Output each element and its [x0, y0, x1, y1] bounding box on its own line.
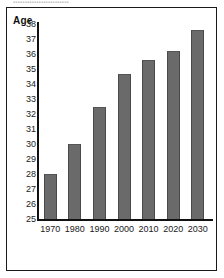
- bar[interactable]: [118, 74, 131, 220]
- bar[interactable]: [68, 144, 81, 219]
- y-tick-label: 28: [2, 169, 36, 179]
- bar[interactable]: [142, 60, 155, 219]
- y-tick-label: 33: [2, 94, 36, 104]
- bar[interactable]: [167, 51, 180, 219]
- bar-slot: [44, 24, 57, 219]
- y-tick-label: 31: [2, 124, 36, 134]
- y-tick-label: 36: [2, 49, 36, 59]
- bar-slot: [93, 24, 106, 219]
- bar-slot: [68, 24, 81, 219]
- y-tick-label: 37: [2, 34, 36, 44]
- y-tick-label: 38: [2, 19, 36, 29]
- bar-slot: [191, 24, 204, 219]
- bar-slot: [118, 24, 131, 219]
- bar-series: [38, 24, 210, 219]
- y-tick-label: 29: [2, 154, 36, 164]
- y-tick-label: 34: [2, 79, 36, 89]
- y-tick-label: 26: [2, 199, 36, 209]
- figure-container: ▪▪▪▪▪▪▪▪▪▪▪▪▪▪▪▪▪▪▪▪▪▪▪▪ Age 25262728293…: [0, 0, 224, 278]
- bar-slot: [142, 24, 155, 219]
- y-tick-label: 25: [2, 214, 36, 224]
- x-axis-line: [37, 219, 213, 221]
- bar[interactable]: [44, 174, 57, 219]
- x-axis-tick-labels: 1970198019902000201020202030: [38, 224, 214, 238]
- bar[interactable]: [93, 107, 106, 220]
- y-tick-label: 30: [2, 139, 36, 149]
- x-tick-label: 2030: [183, 224, 213, 234]
- bar[interactable]: [191, 30, 204, 219]
- y-axis-tick-labels: 2526272829303132333435363738: [0, 0, 36, 278]
- y-tick-label: 32: [2, 109, 36, 119]
- y-tick-label: 27: [2, 184, 36, 194]
- bar-slot: [167, 24, 180, 219]
- y-tick-label: 35: [2, 64, 36, 74]
